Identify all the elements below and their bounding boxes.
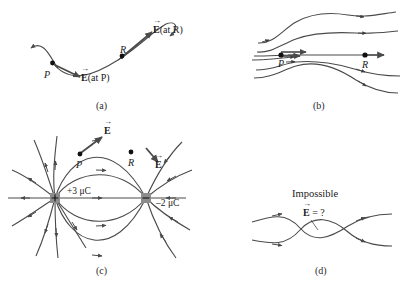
vector-label-E-unknown: E = ? bbox=[303, 208, 325, 218]
field-line-a-main bbox=[52, 24, 166, 76]
vector-suffix: = ? bbox=[312, 207, 325, 218]
arrowhead-b6 bbox=[358, 81, 366, 86]
ah-c-r6 bbox=[45, 224, 48, 233]
panel-b-graphics bbox=[252, 12, 400, 93]
point-label-R-c: R bbox=[128, 158, 134, 168]
panel-label-d: (d) bbox=[315, 266, 327, 276]
field-line-b-2 bbox=[257, 31, 398, 52]
ah-c-n1 bbox=[164, 156, 170, 163]
impossible-title: Impossible bbox=[292, 189, 338, 200]
ah-d-1a bbox=[272, 214, 282, 216]
panel-label-a: (a) bbox=[96, 101, 107, 111]
vector-arrow-E-at-P bbox=[55, 65, 80, 77]
vector-suffix: (at R) bbox=[160, 24, 183, 35]
point-marker-R-b bbox=[362, 52, 367, 57]
point-label-R-a: R bbox=[120, 45, 126, 55]
ah-c-r5 bbox=[28, 212, 36, 217]
point-label-P-b: P bbox=[278, 59, 284, 69]
panel-c-graphics bbox=[8, 136, 192, 258]
point-marker-P-c bbox=[78, 152, 83, 157]
ah-c-n4 bbox=[169, 217, 178, 222]
field-line-c-r8 bbox=[55, 198, 86, 248]
electric-field-lines-figure: P R E(at P) E(at R) (a) P R (b) E E P R … bbox=[0, 0, 415, 294]
ah-c-r7 bbox=[56, 228, 57, 237]
point-marker-P-a bbox=[50, 61, 55, 66]
ah-c-r3 bbox=[28, 178, 36, 183]
leader-line-d bbox=[311, 220, 318, 230]
field-line-d-2 bbox=[252, 220, 392, 246]
vector-label-E-at-P-a: E(at P) bbox=[81, 73, 110, 83]
vector-suffix: (at P) bbox=[88, 72, 110, 83]
ah-d-2b bbox=[356, 238, 365, 242]
point-marker-R-c bbox=[129, 150, 134, 155]
point-label-P-c: P bbox=[76, 160, 82, 170]
field-line-c-n1 bbox=[146, 142, 182, 198]
vector-symbol-E: E bbox=[153, 24, 160, 35]
vector-label-E-at-R-a: E(at R) bbox=[153, 25, 183, 35]
field-line-c-d4 bbox=[55, 198, 146, 221]
ah-c-d4 bbox=[96, 225, 106, 226]
vector-symbol-E: E bbox=[155, 159, 162, 170]
panel-label-b: (b) bbox=[313, 101, 325, 111]
positive-charge-label: +3 μC bbox=[67, 187, 91, 197]
vector-arrow-E-at-R bbox=[122, 32, 152, 57]
field-line-b-1 bbox=[258, 12, 396, 43]
ah-c-r2 bbox=[55, 161, 56, 170]
panel-label-c: (c) bbox=[96, 266, 107, 276]
point-label-R-b: R bbox=[362, 60, 368, 70]
vector-label-E-at-P-c: E bbox=[104, 126, 111, 136]
vector-symbol-E: E bbox=[303, 207, 310, 218]
ah-d-2a bbox=[272, 244, 282, 246]
field-line-b-4 bbox=[252, 57, 294, 60]
field-line-drawing bbox=[0, 0, 415, 294]
ah-d-1b bbox=[356, 218, 365, 222]
panel-d-graphics bbox=[252, 214, 392, 246]
vector-symbol-E: E bbox=[104, 125, 111, 136]
vector-symbol-E: E bbox=[81, 72, 88, 83]
vector-label-E-at-R-c: E bbox=[155, 160, 162, 170]
point-label-P-a: P bbox=[44, 70, 50, 80]
ah-c-n5 bbox=[160, 234, 166, 242]
field-line-b-6 bbox=[254, 64, 398, 93]
ah-c-d5 bbox=[92, 255, 102, 256]
field-line-c-r6 bbox=[36, 198, 55, 256]
point-marker-P-b bbox=[278, 52, 283, 57]
field-line-c-r3 bbox=[12, 170, 55, 198]
negative-charge-label: –2 μC bbox=[156, 199, 179, 209]
field-line-b-3 bbox=[254, 55, 366, 56]
